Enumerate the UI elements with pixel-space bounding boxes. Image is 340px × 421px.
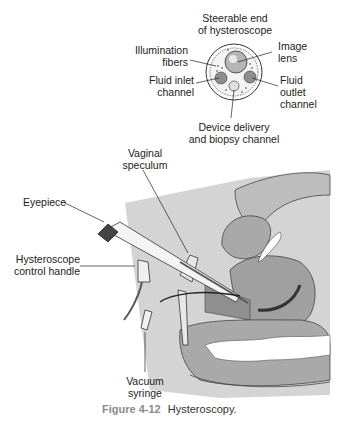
fluid-outlet <box>244 71 256 83</box>
label-line: control handle <box>10 265 80 277</box>
label-line: and biopsy channel <box>184 133 284 145</box>
control-handle <box>138 260 150 282</box>
label-line: Device delivery <box>184 121 284 133</box>
title-line-2: of hysteroscope <box>198 24 272 36</box>
label-line: Vacuum <box>120 375 170 387</box>
label-line: fibers <box>128 56 188 68</box>
figure-number: Figure 4-12 <box>102 403 161 415</box>
device-channel <box>229 81 239 91</box>
label-line: outlet <box>280 86 317 98</box>
label-line: Hysteroscope <box>10 253 80 265</box>
label-line: syringe <box>120 387 170 399</box>
lens-highlight <box>229 55 237 63</box>
image-lens <box>225 51 247 73</box>
label-line: Fluid inlet <box>134 74 194 86</box>
title-line-1: Steerable end <box>198 12 272 24</box>
label-line: Fluid <box>280 74 317 86</box>
label-illumination-fibers: Illumination fibers <box>128 44 188 68</box>
label-line: Illumination <box>128 44 188 56</box>
label-vaginal-speculum: Vaginal speculum <box>115 147 175 171</box>
label-line: Vaginal <box>115 147 175 159</box>
label-fluid-outlet: Fluid outlet channel <box>280 74 317 110</box>
label-line: channel <box>134 86 194 98</box>
label-fluid-inlet: Fluid inlet channel <box>134 74 194 98</box>
label-line: Image <box>278 40 307 52</box>
figure-caption: Figure 4-12 Hysteroscopy. <box>102 403 237 415</box>
fluid-inlet <box>215 72 227 84</box>
label-eyepiece: Eyepiece <box>23 196 66 208</box>
cross-section-title: Steerable end of hysteroscope <box>198 12 272 36</box>
label-image-lens: Image lens <box>278 40 307 64</box>
figure-title: Hysteroscopy. <box>168 403 237 415</box>
label-line: channel <box>280 98 317 110</box>
label-line: speculum <box>115 159 175 171</box>
label-control-handle: Hysteroscope control handle <box>10 253 80 277</box>
label-vacuum-syringe: Vacuum syringe <box>120 375 170 399</box>
label-device-channel: Device delivery and biopsy channel <box>184 121 284 145</box>
eyepiece-leader <box>63 202 104 222</box>
label-line: lens <box>278 52 307 64</box>
